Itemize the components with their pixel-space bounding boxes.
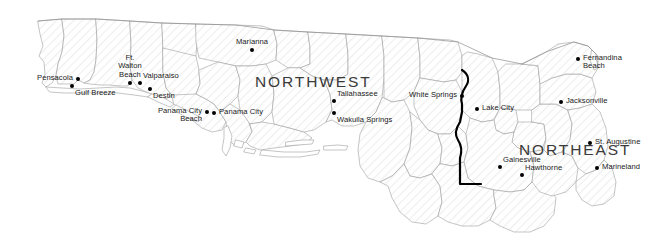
city-dot-icon [559,100,563,104]
city-label: Marianna [236,38,268,46]
city-label: Jacksonville [566,97,608,105]
city-dot-icon [250,48,254,52]
city-label: Pensacola [37,74,73,82]
city-label: Marineland [602,163,640,171]
city-dot-icon [520,173,524,177]
city-label: Destin [153,92,175,100]
city-label: Wakulla Springs [337,116,392,124]
city-dot-icon [128,81,132,85]
map-container: PensacolaGulf BreezeFt. Walton BeachValp… [0,0,663,248]
city-label: Fernandina Beach [583,54,622,71]
city-label: Lake City [482,104,514,112]
city-dot-icon [76,77,80,81]
city-dot-icon [595,166,599,170]
city-dot-icon [148,87,152,91]
region-label-northwest[interactable]: NORTHWEST [255,73,372,91]
region-label-northeast[interactable]: NORTHEAST [519,141,631,159]
city-dot-icon [138,81,142,85]
city-label: Gulf Breeze [75,89,116,97]
city-dot-icon [460,94,464,98]
county-polygons [38,19,616,232]
city-dot-icon [475,107,479,111]
city-dot-icon [70,84,74,88]
city-label: Panama City [219,108,263,116]
florida-north-map-svg [0,0,663,248]
city-label: Valparaiso [143,72,179,80]
city-dot-icon [332,111,336,115]
city-dot-icon [498,165,502,169]
city-dot-icon [205,110,209,114]
city-dot-icon [212,111,216,115]
city-label: Ft. Walton Beach [118,54,142,79]
city-dot-icon [332,99,336,103]
city-dot-icon [576,57,580,61]
city-label: Hawthorne [525,164,562,172]
city-label: Panama City Beach [158,107,202,124]
city-label: White Springs [409,91,457,99]
